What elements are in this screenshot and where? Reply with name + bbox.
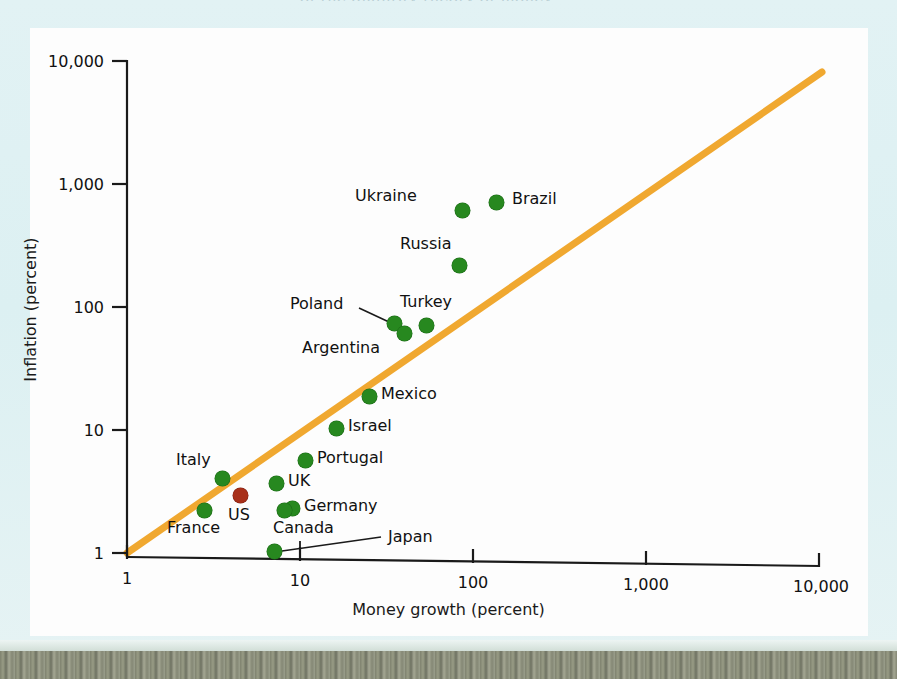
poland-leader-line <box>359 308 389 322</box>
x-axis-title: Money growth (percent) <box>0 600 897 619</box>
point-label-argentina: Argentina <box>302 338 380 357</box>
data-point-france[interactable] <box>197 503 212 518</box>
data-point-portugal[interactable] <box>298 453 313 468</box>
data-point-mexico[interactable] <box>362 389 377 404</box>
japan-leader-line <box>282 537 381 551</box>
data-point-argentina[interactable] <box>397 326 412 341</box>
data-point-us[interactable] <box>233 488 248 503</box>
x-tick-label-10000: 10,000 <box>771 577 871 596</box>
data-point-ukraine[interactable] <box>455 203 470 218</box>
point-label-israel: Israel <box>348 416 392 435</box>
y-tick-label-100: 100 <box>8 298 104 317</box>
x-tick-label-1000: 1,000 <box>601 575 691 594</box>
data-point-turkey[interactable] <box>419 318 434 333</box>
y-tick-label-10000: 10,000 <box>8 52 104 71</box>
data-point-japan[interactable] <box>267 544 282 559</box>
data-point-brazil[interactable] <box>489 195 504 210</box>
data-point-uk[interactable] <box>269 476 284 491</box>
y-axis-ticks <box>112 61 127 553</box>
point-label-japan: Japan <box>388 527 433 546</box>
scan-edge-artifact <box>0 651 897 679</box>
point-label-russia: Russia <box>400 234 451 253</box>
scan-edge-light <box>0 640 897 651</box>
point-label-france: France <box>167 518 220 537</box>
forty-five-degree-line <box>127 72 822 553</box>
point-label-canada: Canada <box>273 518 334 537</box>
point-label-mexico: Mexico <box>381 384 437 403</box>
point-label-italy: Italy <box>176 450 211 469</box>
point-label-brazil: Brazil <box>512 189 557 208</box>
point-label-ukraine: Ukraine <box>355 186 417 205</box>
x-tick-label-1: 1 <box>87 569 167 588</box>
x-tick-label-10: 10 <box>260 571 340 590</box>
y-tick-label-1000: 1,000 <box>8 175 104 194</box>
y-tick-label-1: 1 <box>8 544 104 563</box>
data-point-israel[interactable] <box>329 421 344 436</box>
point-label-turkey: Turkey <box>400 292 452 311</box>
x-tick-label-100: 100 <box>433 573 513 592</box>
data-point-italy[interactable] <box>215 471 230 486</box>
point-label-us: US <box>228 505 250 524</box>
point-label-portugal: Portugal <box>317 448 383 467</box>
point-label-germany: Germany <box>304 496 378 515</box>
y-tick-label-10: 10 <box>8 421 104 440</box>
data-point-canada[interactable] <box>277 503 292 518</box>
point-label-uk: UK <box>288 471 310 490</box>
data-point-russia[interactable] <box>452 258 467 273</box>
point-label-poland: Poland <box>290 294 343 313</box>
scatter-chart: Money growth (percent) Inflation (percen… <box>0 0 897 679</box>
